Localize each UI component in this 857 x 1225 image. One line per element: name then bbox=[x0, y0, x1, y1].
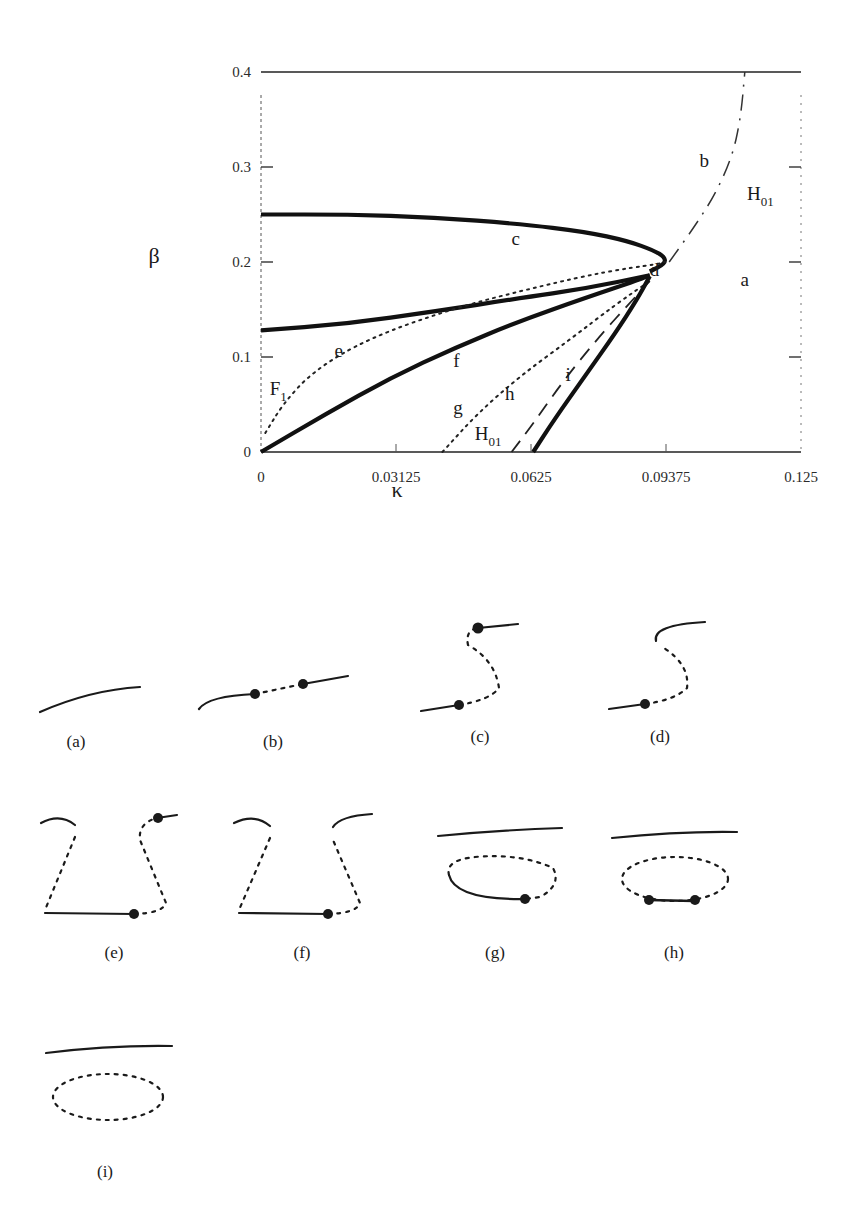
fold-point bbox=[640, 699, 650, 709]
region-label-f: F1 bbox=[270, 378, 287, 404]
region-label-a: a bbox=[741, 269, 750, 290]
region-label-e: e bbox=[334, 340, 342, 361]
curve-solid-thick bbox=[261, 215, 665, 272]
region-label-i: i bbox=[566, 364, 571, 385]
x-tick-label: 0.09375 bbox=[642, 469, 691, 485]
subfigure-h bbox=[612, 832, 737, 905]
region-label-b: b bbox=[699, 150, 709, 171]
fold-point bbox=[644, 895, 654, 905]
subfigure-label-i: (i) bbox=[97, 1162, 113, 1181]
x-tick-label: 0.125 bbox=[784, 469, 818, 485]
region-label-g: g bbox=[453, 397, 463, 418]
subfigure-label-g: (g) bbox=[485, 943, 505, 962]
subfigure-e bbox=[41, 813, 177, 919]
y-tick-label: 0.2 bbox=[232, 254, 251, 270]
subfigure-label-h: (h) bbox=[664, 943, 684, 962]
y-axis-label: β bbox=[148, 243, 159, 268]
region-label-h: h bbox=[505, 383, 515, 404]
stability-diagrams bbox=[40, 622, 737, 1120]
curve-dashed bbox=[512, 281, 650, 452]
y-tick-label: 0 bbox=[244, 444, 252, 460]
phase-diagram-chart: abcdefghiF1H01H01 00.031250.06250.093750… bbox=[148, 64, 817, 502]
x-tick-label: 0.0625 bbox=[510, 469, 551, 485]
fold-point bbox=[323, 909, 333, 919]
subfigure-b bbox=[199, 676, 348, 709]
fold-point bbox=[298, 679, 308, 689]
region-label-c: c bbox=[512, 228, 520, 249]
fold-point bbox=[520, 894, 530, 904]
bifurcation-curves bbox=[261, 72, 745, 452]
subfigure-label-e: (e) bbox=[105, 943, 124, 962]
y-tick-label: 0.3 bbox=[232, 159, 251, 175]
axis-ticks bbox=[261, 167, 801, 452]
subfigure-labels: (a) (b) (c) (d) (e) (f) (g) (h) (i) bbox=[67, 727, 684, 1181]
subfigure-f bbox=[234, 814, 372, 919]
y-tick-labels: 00.10.20.30.4 bbox=[232, 64, 251, 460]
y-tick-label: 0.4 bbox=[232, 64, 251, 80]
fold-point bbox=[250, 689, 260, 699]
region-label-h: H01 bbox=[747, 183, 774, 209]
subfigure-label-a: (a) bbox=[67, 732, 86, 751]
x-tick-label: 0 bbox=[257, 469, 265, 485]
subfigure-d bbox=[609, 622, 705, 709]
subfigure-label-c: (c) bbox=[471, 727, 490, 746]
region-label-f: f bbox=[453, 350, 460, 371]
x-tick-labels: 00.031250.06250.093750.125 bbox=[257, 469, 818, 485]
fold-point bbox=[473, 623, 484, 634]
subfigure-label-b: (b) bbox=[263, 732, 283, 751]
region-label-h: H01 bbox=[475, 423, 502, 449]
fold-point bbox=[690, 895, 700, 905]
subfigure-c bbox=[421, 623, 518, 712]
bifurcation-figure: abcdefghiF1H01H01 00.031250.06250.093750… bbox=[0, 0, 857, 1225]
subfigure-a bbox=[40, 687, 140, 712]
fold-point bbox=[454, 700, 464, 710]
subfigure-g bbox=[438, 828, 562, 904]
x-axis-label: κ bbox=[391, 477, 402, 502]
curve-solid-thick bbox=[533, 276, 650, 452]
subfigure-i bbox=[46, 1046, 172, 1120]
subfigure-label-f: (f) bbox=[294, 943, 311, 962]
subfigure-label-d: (d) bbox=[650, 727, 670, 746]
fold-point bbox=[153, 813, 163, 823]
y-tick-label: 0.1 bbox=[232, 349, 251, 365]
fold-point bbox=[129, 909, 139, 919]
region-label-d: d bbox=[650, 259, 660, 280]
